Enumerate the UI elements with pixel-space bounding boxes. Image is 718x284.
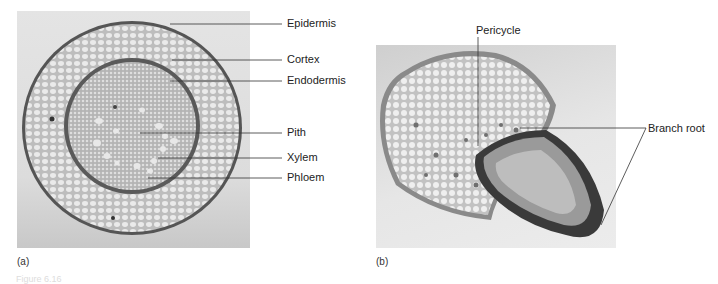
leader-lines xyxy=(0,0,718,284)
label-phloem: Phloem xyxy=(287,171,324,184)
label-epidermis: Epidermis xyxy=(287,17,336,30)
label-cortex: Cortex xyxy=(287,53,319,66)
panel-letter-b: (b) xyxy=(376,256,388,267)
label-endodermis: Endodermis xyxy=(287,74,346,87)
label-xylem: Xylem xyxy=(287,151,318,164)
label-pith: Pith xyxy=(287,126,306,139)
figure-caption: Figure 6.16 xyxy=(16,274,62,284)
panel-letter-a: (a) xyxy=(17,256,29,267)
label-pericycle: Pericycle xyxy=(476,24,521,37)
label-branch-root: Branch root xyxy=(648,122,705,135)
